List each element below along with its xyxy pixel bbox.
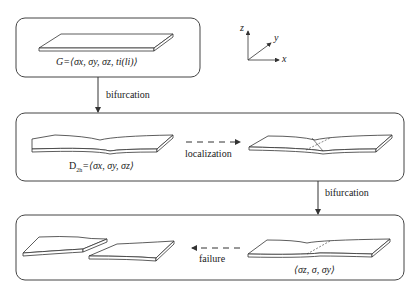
localization-label: localization (185, 148, 232, 159)
diffuse-neck-plate-icon (32, 135, 173, 154)
g-prefix: G= (56, 56, 70, 67)
failure-label: failure (199, 253, 225, 264)
stage-2-formula: D2h=⟨σx, σy, σz⟩ (69, 160, 134, 173)
bifurcation-label-2: bifurcation (325, 187, 369, 198)
stage-3-formula: ⟨σz, σ, σy⟩ (294, 264, 335, 275)
bifurcation-label-1: bifurcation (106, 89, 150, 100)
shear-band-plate-icon (248, 239, 390, 257)
localized-band-plate-icon (249, 135, 392, 154)
flat-plate-icon (39, 34, 173, 51)
axis-label-x: x (282, 53, 286, 64)
g-formula: ⟨σx, σy, σz, ti(li)⟩ (70, 56, 138, 67)
axis-label-z: z (240, 22, 244, 33)
d-formula: =⟨σx, σy, σz⟩ (82, 160, 134, 171)
axis-label-y: y (274, 32, 278, 43)
stage-1-formula: G=⟨σx, σy, σz, ti(li)⟩ (56, 56, 138, 67)
fractured-plate-icon (23, 237, 174, 262)
